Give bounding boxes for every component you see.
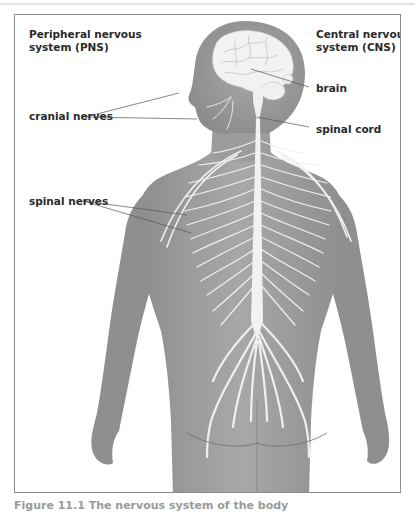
figure-caption: Figure 11.1 The nervous system of the bo… xyxy=(14,499,288,512)
figure-frame: Peripheral nervous system (PNS) Central … xyxy=(14,14,401,493)
label-brain: brain xyxy=(316,82,347,95)
pns-title: Peripheral nervous system (PNS) xyxy=(29,28,142,54)
label-spinal-cord: spinal cord xyxy=(316,123,381,136)
pns-title-line1: Peripheral nervous xyxy=(29,28,142,41)
pns-title-line2: system (PNS) xyxy=(29,41,142,54)
top-rule xyxy=(0,3,415,5)
label-spinal-nerves: spinal nerves xyxy=(29,195,108,208)
cns-title: Central nervous system (CNS) xyxy=(316,28,401,54)
label-cranial-nerves: cranial nerves xyxy=(29,110,113,123)
cns-title-line2: system (CNS) xyxy=(316,41,401,54)
cns-title-line1: Central nervous xyxy=(316,28,401,41)
